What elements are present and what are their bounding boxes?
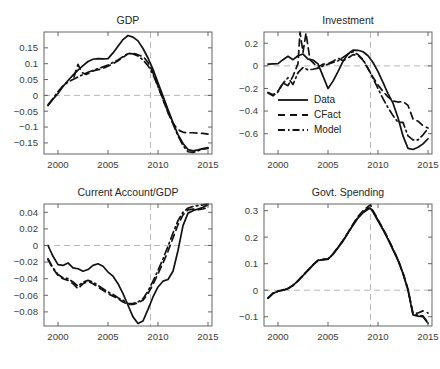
gdp-ytick-label: 0.1 <box>25 58 38 69</box>
panel-current-account-gdp: Current Account/GDP0.040.020−0.02−0.04−0… <box>0 178 220 356</box>
govt-spending-xtick-label: 2000 <box>267 331 288 342</box>
gdp-ytick-label: −0.1 <box>19 121 38 132</box>
govt-spending-chart-svg: Govt. Spending0.30.20.10−0.1200020052010… <box>220 178 440 356</box>
investment-series-model <box>268 52 428 140</box>
govt-spending-ytick-label: −0.1 <box>239 311 258 322</box>
gdp-chart-svg: GDP0.150.10.050−0.05−0.1−0.1520002005201… <box>0 6 220 184</box>
gdp-series-data <box>48 35 208 150</box>
legend-label-data: Data <box>314 94 336 105</box>
gdp-series-model <box>48 54 208 153</box>
panel-govt-spending: Govt. Spending0.30.20.10−0.1200020052010… <box>220 178 440 356</box>
current-account-gdp-series-model <box>48 204 208 304</box>
govt-spending-series-cfact <box>268 205 428 314</box>
current-account-gdp-ytick-label: −0.08 <box>14 306 38 317</box>
current-account-gdp-xtick-label: 2000 <box>47 331 68 342</box>
investment-ytick-label: 0.2 <box>245 38 258 49</box>
govt-spending-axis-box <box>264 204 432 326</box>
investment-xtick-label: 2015 <box>417 159 438 170</box>
govt-spending-xtick-label: 2005 <box>317 331 338 342</box>
current-account-gdp-ytick-label: 0.04 <box>19 207 38 218</box>
gdp-xtick-label: 2015 <box>197 159 218 170</box>
gdp-ytick-label: 0.05 <box>19 74 38 85</box>
gdp-ytick-label: 0.15 <box>19 42 38 53</box>
gdp-axis-box <box>44 32 212 154</box>
investment-ytick-label: 0 <box>253 60 258 71</box>
investment-ytick-label: −0.6 <box>239 128 258 139</box>
govt-spending-ytick-label: 0 <box>253 285 258 296</box>
panel-gdp: GDP0.150.10.050−0.05−0.1−0.1520002005201… <box>0 6 220 184</box>
investment-xtick-label: 2000 <box>267 159 288 170</box>
current-account-gdp-ytick-label: −0.06 <box>14 290 38 301</box>
govt-spending-ytick-label: 0.2 <box>245 232 258 243</box>
investment-ytick-label: −0.4 <box>239 105 259 116</box>
investment-title: Investment <box>322 14 373 26</box>
current-account-gdp-xtick-label: 2005 <box>97 331 118 342</box>
current-account-gdp-ytick-label: −0.04 <box>14 273 39 284</box>
gdp-xtick-label: 2005 <box>97 159 118 170</box>
current-account-chart-svg: Current Account/GDP0.040.020−0.02−0.04−0… <box>0 178 220 356</box>
govt-spending-title: Govt. Spending <box>312 186 385 198</box>
investment-ytick-label: −0.2 <box>239 83 258 94</box>
investment-xtick-label: 2010 <box>367 159 388 170</box>
legend-label-model: Model <box>314 124 341 135</box>
govt-spending-series-data <box>268 209 428 324</box>
govt-spending-ytick-label: 0.3 <box>245 205 258 216</box>
investment-axis-box <box>264 32 432 154</box>
gdp-ytick-label: −0.05 <box>14 106 38 117</box>
gdp-ytick-label: −0.15 <box>14 137 38 148</box>
govt-spending-ytick-label: 0.1 <box>245 258 258 269</box>
investment-xtick-label: 2005 <box>317 159 338 170</box>
current-account-gdp-ytick-label: 0 <box>33 240 38 251</box>
gdp-title: GDP <box>117 14 140 26</box>
current-account-gdp-ytick-label: −0.02 <box>14 256 38 267</box>
current-account-gdp-series-data <box>48 205 208 324</box>
current-account-gdp-ytick-label: 0.02 <box>19 223 38 234</box>
legend-label-cfact: CFact <box>314 109 341 120</box>
govt-spending-series-model <box>268 207 428 322</box>
current-account-gdp-title: Current Account/GDP <box>78 186 179 198</box>
figure-panel-grid: GDP0.150.10.050−0.05−0.1−0.1520002005201… <box>0 0 440 369</box>
subplot-container: GDP0.150.10.050−0.05−0.1−0.1520002005201… <box>0 0 440 369</box>
govt-spending-xtick-label: 2010 <box>367 331 388 342</box>
current-account-gdp-xtick-label: 2015 <box>197 331 218 342</box>
investment-chart-svg: Investment0.20−0.2−0.4−0.620002005201020… <box>220 6 440 184</box>
govt-spending-xtick-label: 2015 <box>417 331 438 342</box>
gdp-series-cfact <box>74 53 208 134</box>
panel-investment: Investment0.20−0.2−0.4−0.620002005201020… <box>220 6 440 184</box>
current-account-gdp-xtick-label: 2010 <box>147 331 168 342</box>
investment-series-cfact <box>268 32 428 128</box>
gdp-xtick-label: 2000 <box>47 159 68 170</box>
gdp-ytick-label: 0 <box>33 90 38 101</box>
gdp-xtick-label: 2010 <box>147 159 168 170</box>
